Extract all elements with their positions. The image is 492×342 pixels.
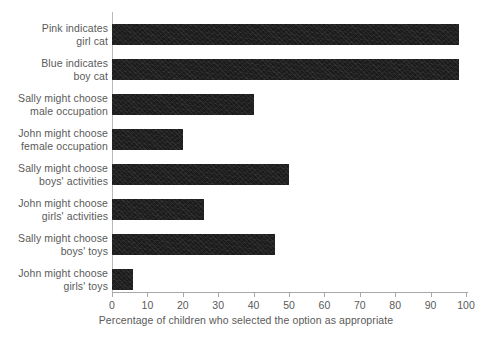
- bar[interactable]: [112, 164, 289, 185]
- bar[interactable]: [112, 269, 133, 290]
- category-label: John might choosefemale occupation: [0, 127, 108, 152]
- x-axis-tick-label: 10: [127, 299, 167, 312]
- bar-row[interactable]: [112, 199, 204, 220]
- x-axis-tick: [147, 292, 148, 297]
- x-axis-tick-label: 50: [269, 299, 309, 312]
- x-axis-tick: [466, 292, 467, 297]
- category-label: John might choosegirls' activities: [0, 197, 108, 222]
- x-axis-tick-label: 0: [92, 299, 132, 312]
- x-axis-tick-label: 20: [163, 299, 203, 312]
- x-axis-tick: [254, 292, 255, 297]
- bar[interactable]: [112, 234, 275, 255]
- x-axis-tick-label: 30: [198, 299, 238, 312]
- x-axis-tick-label: 60: [304, 299, 344, 312]
- x-axis-tick: [183, 292, 184, 297]
- bar[interactable]: [112, 94, 254, 115]
- category-label-line: boys' activities: [0, 175, 108, 188]
- category-label-line: Pink indicates: [0, 22, 108, 35]
- category-label: Pink indicatesgirl cat: [0, 22, 108, 47]
- bar[interactable]: [112, 199, 204, 220]
- x-axis-tick: [431, 292, 432, 297]
- x-axis-tick-label: 90: [411, 299, 451, 312]
- x-axis-line: [112, 292, 468, 293]
- category-label-line: John might choose: [0, 267, 108, 280]
- category-label-line: boys' toys: [0, 245, 108, 258]
- x-axis-tick: [218, 292, 219, 297]
- category-label-line: Sally might choose: [0, 92, 108, 105]
- category-label-line: girl cat: [0, 35, 108, 48]
- category-label: Sally might chooseboys' activities: [0, 162, 108, 187]
- x-axis-tick: [112, 292, 113, 297]
- category-label-line: female occupation: [0, 140, 108, 153]
- x-axis-tick-label: 70: [340, 299, 380, 312]
- category-label: Sally might chooseboys' toys: [0, 232, 108, 257]
- x-axis-title: Percentage of children who selected the …: [0, 314, 492, 326]
- category-label-line: John might choose: [0, 127, 108, 140]
- bar-row[interactable]: [112, 59, 459, 80]
- x-axis-tick-label: 100: [446, 299, 486, 312]
- bar-row[interactable]: [112, 129, 183, 150]
- category-label: Sally might choosemale occupation: [0, 92, 108, 117]
- category-label-line: Sally might choose: [0, 232, 108, 245]
- category-label-line: Sally might choose: [0, 162, 108, 175]
- bar-row[interactable]: [112, 164, 289, 185]
- x-axis-tick: [395, 292, 396, 297]
- category-label-line: boy cat: [0, 70, 108, 83]
- category-label: Blue indicatesboy cat: [0, 57, 108, 82]
- category-label-line: Blue indicates: [0, 57, 108, 70]
- category-label-line: girls' activities: [0, 210, 108, 223]
- bar[interactable]: [112, 59, 459, 80]
- bar-row[interactable]: [112, 94, 254, 115]
- bar-row[interactable]: [112, 269, 133, 290]
- bar-row[interactable]: [112, 234, 275, 255]
- category-label-line: girls' toys: [0, 280, 108, 293]
- x-axis-tick: [324, 292, 325, 297]
- x-axis-tick: [360, 292, 361, 297]
- bar[interactable]: [112, 129, 183, 150]
- bar[interactable]: [112, 24, 459, 45]
- bar-chart: Pink indicatesgirl catBlue indicatesboy …: [0, 0, 492, 342]
- x-axis-tick-label: 80: [375, 299, 415, 312]
- category-label-line: John might choose: [0, 197, 108, 210]
- category-label-line: male occupation: [0, 105, 108, 118]
- category-label: John might choosegirls' toys: [0, 267, 108, 292]
- x-axis-tick: [289, 292, 290, 297]
- x-axis-tick-label: 40: [234, 299, 274, 312]
- bar-row[interactable]: [112, 24, 459, 45]
